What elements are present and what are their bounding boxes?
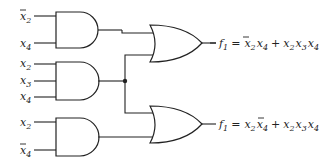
or-gate-1: [150, 25, 216, 62]
and-gate-1: [34, 12, 122, 48]
label-x2-bar: x2: [20, 10, 31, 25]
output-equation-2: f1=x2x4+x2x3x4: [218, 118, 319, 133]
and-gate-3: [34, 118, 153, 156]
logic-circuit-diagram: x2 x4 x2 x3 x4 x2 x4 f1=x2x4+x2x3x4 f1=x…: [0, 0, 333, 165]
or-gate-2: [150, 106, 216, 143]
label-x2: x2: [20, 116, 31, 131]
branch-to-or2: [125, 81, 154, 113]
label-x2: x2: [20, 57, 31, 72]
and-gate-2: [34, 62, 125, 100]
label-x4-bar: x4: [20, 144, 31, 159]
branch-to-or1: [125, 55, 154, 81]
output-equation-1: f1=x2x4+x2x3x4: [210, 37, 319, 52]
label-x4: x4: [20, 37, 31, 52]
and1-to-or1: [122, 30, 154, 33]
label-x4: x4: [20, 90, 31, 105]
svg-text:f1=x2x4+x2x3x4: f1=x2x4+x2x3x4: [218, 118, 319, 133]
input-labels: x2 x4 x2 x3 x4 x2 x4: [20, 10, 31, 159]
label-x3: x3: [20, 74, 31, 89]
svg-text:f1=x2x4+x2x3x4: f1=x2x4+x2x3x4: [218, 37, 319, 52]
